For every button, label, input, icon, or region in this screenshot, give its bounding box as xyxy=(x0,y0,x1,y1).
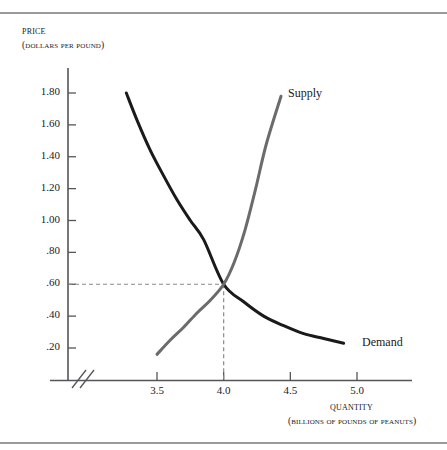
x-tick-label: 4.0 xyxy=(204,384,244,396)
x-tick-label: 5.0 xyxy=(337,384,377,396)
y-tick-label: 1.60 xyxy=(24,117,60,129)
x-tick-label: 4.5 xyxy=(270,384,310,396)
y-tick-label: .80 xyxy=(24,244,60,256)
y-tick-label: .60 xyxy=(24,276,60,288)
equilibrium-guide-lines xyxy=(68,284,224,380)
y-tick-label: 1.20 xyxy=(24,181,60,193)
x-axis-ticks xyxy=(157,372,357,380)
x-axis-break-icon xyxy=(72,370,94,388)
axis-lines xyxy=(50,68,412,381)
curves-group xyxy=(126,93,343,354)
y-tick-label: 1.00 xyxy=(24,213,60,225)
y-tick-label: 1.40 xyxy=(24,149,60,161)
x-tick-label: 3.5 xyxy=(137,384,177,396)
y-tick-label: .40 xyxy=(24,308,60,320)
supply-demand-figure: Price (Dollars per pound) Quantity (Bill… xyxy=(0,0,447,450)
y-tick-label: 1.80 xyxy=(24,85,60,97)
y-tick-label: .20 xyxy=(24,340,60,352)
plot-area xyxy=(0,0,447,450)
demand-curve xyxy=(126,93,343,343)
y-axis-ticks xyxy=(68,93,76,348)
